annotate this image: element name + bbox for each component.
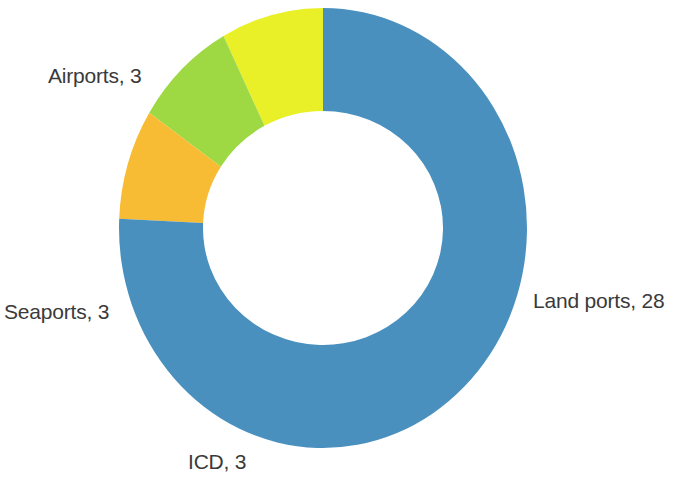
slice-label-land-ports: Land ports, 28 [533, 289, 664, 312]
slice-label-airports: Airports, 3 [48, 64, 142, 87]
slice-label-icd: ICD, 3 [188, 450, 246, 473]
donut-slices [119, 8, 527, 448]
chart-page: Land ports, 28 Airports, 3 Seaports, 3 I… [0, 0, 676, 483]
slice-label-seaports: Seaports, 3 [4, 300, 109, 323]
